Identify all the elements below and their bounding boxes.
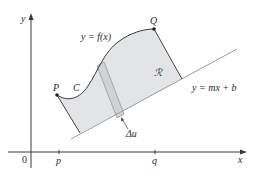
point-q-label: Q (150, 15, 158, 26)
point-p (55, 93, 59, 97)
x-axis-label: x (237, 154, 243, 165)
y-axis-arrow-icon (29, 13, 34, 20)
line-label: y = mx + b (191, 82, 237, 93)
curve-label: y = f(x) (80, 31, 112, 43)
delta-u-arrow-icon (121, 117, 124, 122)
tick-label-p: p (55, 155, 61, 166)
y-axis-label: y (20, 13, 26, 24)
origin-label: 0 (22, 154, 27, 165)
area-diagram: y x 0 p q y = f(x) C P Q ℛ y = mx + b Δu (0, 0, 256, 176)
point-p-label: P (52, 82, 59, 93)
point-q (152, 27, 156, 31)
tick-label-q: q (152, 155, 157, 166)
strip-label: Δu (125, 128, 137, 139)
region-label: ℛ (154, 67, 163, 78)
curve-name-c: C (73, 82, 80, 93)
